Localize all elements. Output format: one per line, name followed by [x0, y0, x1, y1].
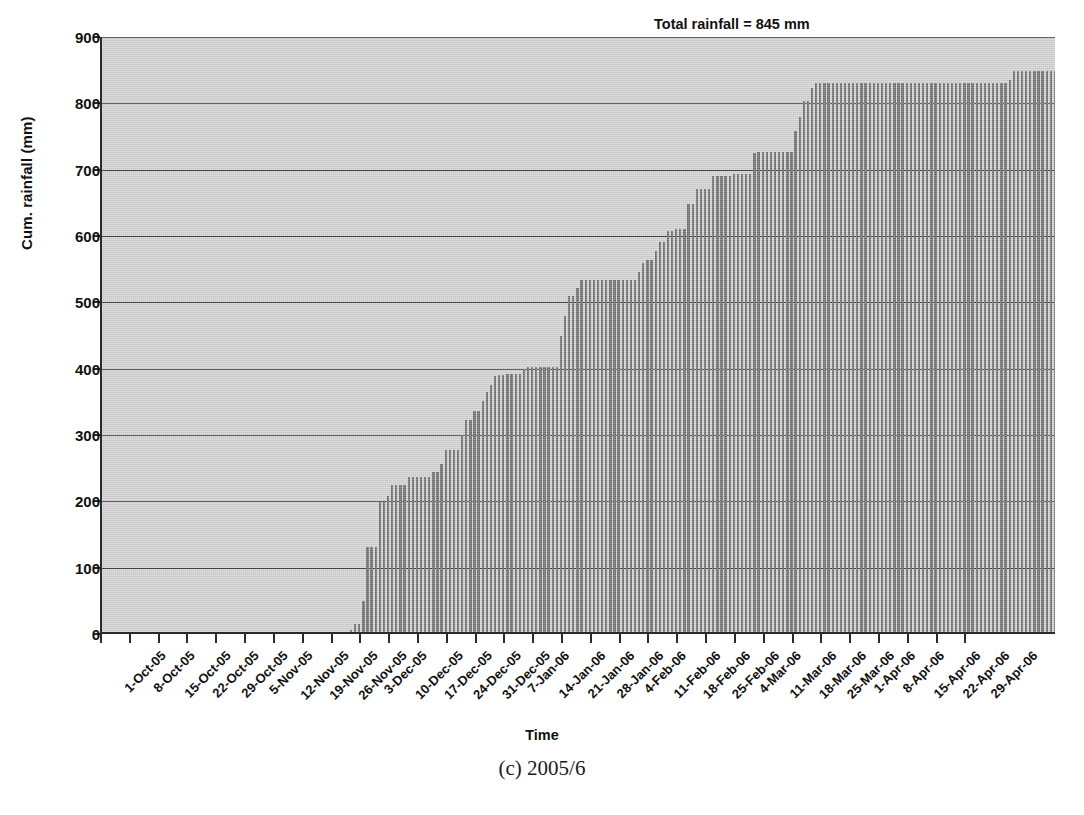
- bar: [564, 316, 566, 632]
- figure-caption: (c) 2005/6: [0, 756, 1084, 781]
- bar: [807, 101, 809, 632]
- bar: [790, 152, 792, 632]
- bar: [642, 263, 644, 632]
- bar: [576, 288, 578, 632]
- x-tick-19-Nov-05: [302, 634, 304, 643]
- bar: [832, 83, 834, 632]
- bar: [827, 83, 829, 632]
- x-tick-18-Feb-06: [676, 634, 678, 643]
- bar: [733, 174, 735, 632]
- bar: [1017, 71, 1019, 632]
- bar: [449, 450, 451, 632]
- bar: [914, 83, 916, 632]
- bar: [741, 174, 743, 632]
- bar: [864, 83, 866, 632]
- bar: [881, 83, 883, 632]
- bar: [667, 231, 669, 632]
- x-tick-21-Jan-06: [561, 634, 563, 643]
- bar: [700, 189, 702, 632]
- bar: [387, 496, 389, 632]
- bar: [663, 242, 665, 632]
- y-tick-label-100: 100: [38, 559, 100, 576]
- y-tick-label-600: 600: [38, 228, 100, 245]
- bar: [399, 485, 401, 632]
- bar: [1013, 71, 1015, 632]
- bar: [391, 485, 393, 632]
- bar: [572, 296, 574, 632]
- x-tick-10-Dec-05: [388, 634, 390, 643]
- bar: [696, 189, 698, 632]
- bar: [885, 83, 887, 632]
- x-tick-25-Feb-06: [705, 634, 707, 643]
- bar: [922, 83, 924, 632]
- bar: [420, 477, 422, 632]
- bar: [556, 367, 558, 632]
- bar: [1029, 71, 1031, 632]
- x-tick-8-Apr-06: [878, 634, 880, 643]
- bar: [939, 83, 941, 632]
- bar: [453, 450, 455, 632]
- bar: [897, 83, 899, 632]
- bar: [659, 242, 661, 632]
- bar: [638, 272, 640, 632]
- bar: [910, 83, 912, 632]
- x-tick-11-Feb-06: [647, 634, 649, 643]
- y-tick-label-500: 500: [38, 294, 100, 311]
- x-tick-18-Mar-06: [792, 634, 794, 643]
- y-tick-label-300: 300: [38, 427, 100, 444]
- bar: [379, 502, 381, 632]
- bar: [716, 176, 718, 632]
- bar: [984, 83, 986, 632]
- bar: [362, 601, 364, 632]
- bar: [445, 450, 447, 632]
- bar: [502, 375, 504, 632]
- bar: [745, 174, 747, 632]
- bar: [519, 374, 521, 632]
- bar: [799, 117, 801, 632]
- bar: [856, 83, 858, 632]
- bar: [906, 83, 908, 632]
- bar: [675, 229, 677, 632]
- bar: [1054, 71, 1055, 632]
- bar: [473, 411, 475, 632]
- bar: [609, 280, 611, 632]
- bar: [350, 630, 352, 632]
- bar: [424, 477, 426, 632]
- bar: [416, 477, 418, 632]
- x-tick-4-Mar-06: [734, 634, 736, 643]
- bar: [712, 176, 714, 632]
- bar: [461, 435, 463, 632]
- bar: [469, 420, 471, 632]
- bar: [383, 502, 385, 632]
- y-tick-label-0: 0: [38, 626, 100, 643]
- bar: [543, 367, 545, 632]
- bar: [440, 464, 442, 632]
- bar: [523, 369, 525, 632]
- bar: [465, 420, 467, 632]
- bar: [889, 83, 891, 632]
- bar: [762, 152, 764, 632]
- bar: [996, 83, 998, 632]
- bar: [655, 251, 657, 632]
- bar: [1033, 71, 1035, 632]
- x-tick-15-Apr-06: [907, 634, 909, 643]
- bar: [622, 280, 624, 632]
- x-tick-7-Jan-06: [503, 634, 505, 643]
- bar: [506, 374, 508, 632]
- y-tick-label-400: 400: [38, 360, 100, 377]
- bar: [774, 152, 776, 632]
- bar: [844, 83, 846, 632]
- bar: [753, 153, 755, 632]
- bar: [692, 204, 694, 633]
- x-tick-24-Dec-05: [446, 634, 448, 643]
- x-tick-5-Nov-05: [244, 634, 246, 643]
- x-tick-31-Dec-05: [475, 634, 477, 643]
- bar: [803, 101, 805, 632]
- bar: [971, 83, 973, 632]
- y-tick-label-900: 900: [38, 29, 100, 46]
- bar: [1041, 71, 1043, 632]
- bar: [934, 83, 936, 632]
- x-tick-22-Apr-06: [936, 634, 938, 643]
- bar: [873, 83, 875, 632]
- bar-series: [102, 37, 1055, 632]
